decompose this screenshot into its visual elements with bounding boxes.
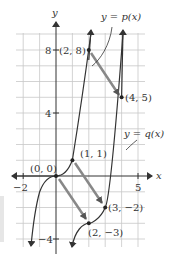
tick-neg4: −4: [38, 234, 53, 245]
tick-4: 4: [45, 108, 51, 119]
graph: y x −2 5 8 4 −4 (2, 8) (4, 5) (1, 1) (0,…: [0, 0, 174, 256]
point-label-0-0: (0, 0): [30, 163, 57, 174]
point-label-2-m3: (2, −3): [88, 227, 123, 238]
p-function-label: y = p(x): [100, 11, 141, 22]
tick-5: 5: [135, 182, 141, 193]
tick-neg2: −2: [13, 182, 28, 193]
point-label-4-5: (4, 5): [125, 92, 152, 103]
tick-8: 8: [45, 45, 51, 56]
point-label-2-8: (2, 8): [59, 45, 86, 56]
q-function-label: y = q(x): [123, 128, 164, 139]
curve-p-low: [72, 33, 123, 247]
point-label-3-m2: (3, −2): [108, 202, 143, 213]
x-axis-label: x: [156, 170, 162, 181]
point-label-1-1: (1, 1): [80, 148, 107, 159]
y-axis-label: y: [51, 7, 58, 18]
